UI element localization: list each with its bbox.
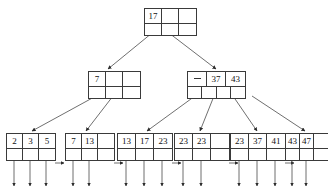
key-cell: 23 bbox=[231, 134, 249, 148]
key-row: 233741 bbox=[231, 134, 285, 148]
key-cell: 13 bbox=[118, 134, 136, 148]
key-row: 17 bbox=[145, 9, 196, 23]
key-cell: 17 bbox=[145, 9, 162, 23]
record-pointer-cell[interactable] bbox=[118, 149, 136, 160]
key-cell: 5 bbox=[39, 134, 55, 148]
key-row: 235 bbox=[7, 134, 55, 148]
record-pointer-cell[interactable] bbox=[314, 149, 328, 160]
tree-node-leaf[interactable]: 2323 bbox=[174, 133, 230, 161]
edge-internal-left-to-leaf-2 bbox=[86, 96, 113, 131]
record-pointer-cell[interactable] bbox=[249, 149, 267, 160]
pointer-row bbox=[89, 86, 140, 98]
key-row: 7 bbox=[89, 72, 140, 86]
key-cell: 47 bbox=[300, 134, 314, 148]
key-cell: 2 bbox=[7, 134, 23, 148]
key-cell: 43 bbox=[286, 134, 300, 148]
key-cell: 13 bbox=[82, 134, 98, 148]
record-pointer-cell[interactable] bbox=[211, 149, 229, 160]
edge-internal-right-to-leaf-4 bbox=[200, 96, 214, 131]
key-cell: 43 bbox=[226, 72, 245, 86]
pointer-cell[interactable] bbox=[179, 24, 196, 35]
key-cell: 37 bbox=[207, 72, 226, 86]
tree-node-root[interactable]: 17 bbox=[144, 8, 197, 36]
pointer-cell[interactable] bbox=[89, 87, 106, 98]
key-row: 4347 bbox=[286, 134, 328, 148]
key-cell bbox=[106, 72, 123, 86]
tree-node-internal-left[interactable]: 7 bbox=[88, 71, 141, 99]
key-cell bbox=[98, 134, 114, 148]
pointer-row bbox=[7, 148, 55, 160]
edge-internal-right-to-leaf-6 bbox=[252, 96, 305, 131]
key-row: 713 bbox=[66, 134, 114, 148]
record-pointer-cell[interactable] bbox=[136, 149, 154, 160]
key-cell: 23 bbox=[154, 134, 172, 148]
record-pointer-cell[interactable] bbox=[7, 149, 23, 160]
key-row: 2323 bbox=[175, 134, 229, 148]
key-cell: 37 bbox=[249, 134, 267, 148]
tree-node-leaf[interactable]: 235 bbox=[6, 133, 56, 161]
record-pointer-cell[interactable] bbox=[98, 149, 114, 160]
record-pointer-cell[interactable] bbox=[66, 149, 82, 160]
record-pointer-arrows bbox=[14, 159, 306, 186]
tree-node-leaf[interactable]: 131723 bbox=[117, 133, 173, 161]
key-cell bbox=[179, 9, 196, 23]
key-cell: 17 bbox=[136, 134, 154, 148]
tree-node-internal-right[interactable]: 37 43 bbox=[187, 71, 246, 99]
pointer-row bbox=[175, 148, 229, 160]
record-pointer-cell[interactable] bbox=[175, 149, 193, 160]
pointer-cell[interactable] bbox=[106, 87, 123, 98]
key-cell: 41 bbox=[267, 134, 285, 148]
pointer-row bbox=[145, 23, 196, 35]
record-pointer-cell[interactable] bbox=[154, 149, 172, 160]
pointer-cell[interactable] bbox=[217, 87, 231, 98]
edge-internal-right-to-leaf-3 bbox=[147, 96, 195, 131]
pointer-row bbox=[188, 86, 245, 98]
key-cell: 7 bbox=[89, 72, 106, 86]
key-row: 37 43 bbox=[188, 72, 245, 86]
tree-node-leaf[interactable]: 713 bbox=[65, 133, 115, 161]
dash-icon bbox=[194, 78, 201, 79]
record-pointer-cell[interactable] bbox=[267, 149, 285, 160]
pointer-cell[interactable] bbox=[202, 87, 216, 98]
key-cell: 3 bbox=[23, 134, 39, 148]
tree-node-leaf[interactable]: 233741 bbox=[230, 133, 286, 161]
pointer-row bbox=[118, 148, 172, 160]
pointer-cell[interactable] bbox=[123, 87, 140, 98]
key-cell: 23 bbox=[175, 134, 193, 148]
record-pointer-cell[interactable] bbox=[286, 149, 300, 160]
key-cell: 23 bbox=[193, 134, 211, 148]
key-cell bbox=[314, 134, 328, 148]
key-cell bbox=[211, 134, 229, 148]
edge-root-to-internal-left bbox=[108, 33, 152, 69]
record-pointer-cell[interactable] bbox=[82, 149, 98, 160]
key-row: 131723 bbox=[118, 134, 172, 148]
record-pointer-cell[interactable] bbox=[193, 149, 211, 160]
pointer-cell[interactable] bbox=[231, 87, 245, 98]
pointer-row bbox=[286, 148, 328, 160]
key-cell-placeholder bbox=[188, 72, 207, 86]
pointer-row bbox=[231, 148, 285, 160]
edge-internal-right-to-leaf-5 bbox=[233, 96, 257, 131]
key-cell bbox=[162, 9, 179, 23]
key-cell: 7 bbox=[66, 134, 82, 148]
record-pointer-cell[interactable] bbox=[231, 149, 249, 160]
tree-node-leaf[interactable]: 4347 bbox=[285, 133, 328, 161]
key-cell bbox=[123, 72, 140, 86]
pointer-cell[interactable] bbox=[145, 24, 162, 35]
record-pointer-cell[interactable] bbox=[23, 149, 39, 160]
pointer-cell[interactable] bbox=[188, 87, 202, 98]
record-pointer-cell[interactable] bbox=[39, 149, 55, 160]
edge-root-to-internal-right bbox=[169, 33, 216, 69]
pointer-cell[interactable] bbox=[162, 24, 179, 35]
record-pointer-cell[interactable] bbox=[300, 149, 314, 160]
edge-internal-left-to-leaf-1 bbox=[32, 96, 96, 131]
b-plus-tree-diagram: 17 7 37 43 bbox=[0, 0, 328, 195]
pointer-row bbox=[66, 148, 114, 160]
